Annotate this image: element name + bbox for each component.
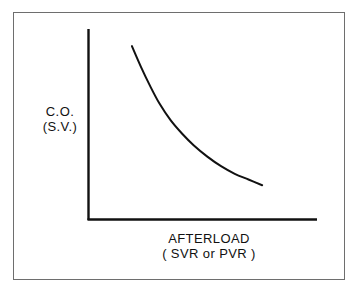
- y-axis-label: C.O. (S.V.): [34, 104, 86, 134]
- x-axis-label: AFTERLOAD ( SVR or PVR ): [125, 231, 293, 261]
- x-axis-label-line2: ( SVR or PVR ): [125, 246, 293, 261]
- x-axis-label-line1: AFTERLOAD: [125, 231, 293, 246]
- figure-container: C.O. (S.V.) AFTERLOAD ( SVR or PVR ): [0, 0, 358, 293]
- y-axis-label-line2: (S.V.): [34, 119, 86, 134]
- y-axis-label-line1: C.O.: [34, 104, 86, 119]
- data-series-curve: [132, 46, 262, 185]
